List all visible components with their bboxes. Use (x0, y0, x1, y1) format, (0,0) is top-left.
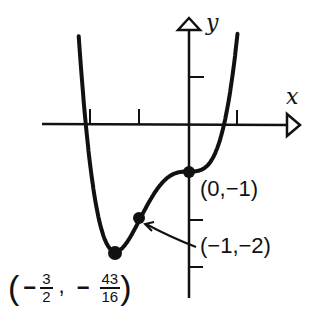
point-label-0-neg1: (0,−1) (200, 176, 258, 202)
x-axis (42, 124, 288, 125)
point-label-minimum: (−32,−4316) (8, 268, 132, 307)
point-label-neg1-neg2: (−1,−2) (200, 233, 271, 259)
x-axis-label: x (286, 84, 298, 109)
point-neg1-neg2 (133, 212, 145, 224)
x-axis-arrow-icon (287, 114, 300, 136)
point-0-neg1 (183, 166, 195, 178)
point-minimum (108, 246, 122, 260)
y-axis-label: y (206, 10, 218, 35)
y-axis-arrow-icon (178, 18, 200, 30)
function-curve (79, 34, 238, 252)
